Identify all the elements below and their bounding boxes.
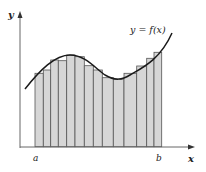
bar-12 (137, 66, 147, 147)
bar-1 (35, 73, 43, 146)
bar-8 (93, 70, 102, 147)
y-axis-arrow-icon (18, 11, 23, 18)
bar-4 (58, 61, 66, 147)
bar-7 (84, 66, 93, 147)
x-axis-arrow-icon (188, 145, 195, 150)
bar-6 (75, 57, 84, 147)
bar-2 (43, 70, 50, 147)
bar-14 (154, 52, 162, 146)
x-axis-label: x (187, 153, 195, 164)
riemann-sum-diagram: y x a b y = f(x) (0, 0, 206, 172)
bar-10 (113, 79, 124, 147)
bar-11 (124, 73, 137, 146)
y-axis-label: y (7, 9, 15, 20)
interval-start-label: a (33, 153, 38, 163)
bar-9 (102, 78, 113, 147)
curve-label: y = f(x) (129, 24, 166, 35)
bar-13 (147, 58, 154, 146)
riemann-bars (35, 52, 162, 146)
interval-end-label: b (156, 153, 162, 163)
bar-5 (67, 55, 75, 147)
bar-3 (51, 60, 59, 147)
